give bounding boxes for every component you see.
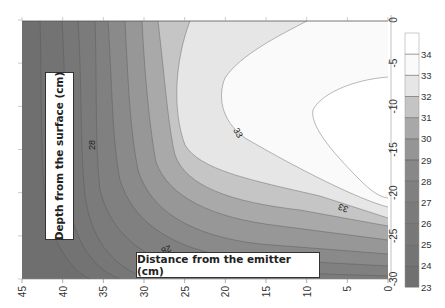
y-axis-label: Depth from the surface (cm)	[54, 72, 66, 241]
colorbar-band	[405, 75, 419, 96]
contour-label-28a: 28	[87, 140, 97, 150]
colorbar-tick-label: 33	[421, 70, 432, 81]
colorbar: 343332313029282726252423	[405, 33, 432, 293]
colorbar-tick-label: 27	[421, 197, 432, 208]
colorbar-band	[405, 139, 419, 160]
colorbar-tick-label: 26	[421, 218, 432, 229]
x-tick-label: 30	[139, 286, 150, 298]
y-tick-label: -5	[388, 58, 399, 67]
plot-area	[22, 21, 388, 279]
y-tick-label: -20	[388, 185, 399, 200]
colorbar-band	[405, 54, 419, 75]
x-tick-label: 15	[261, 286, 272, 298]
colorbar-band	[405, 97, 419, 118]
x-axis-label-box: Distance from the emitter (cm)	[136, 252, 320, 278]
x-tick-label: 10	[302, 286, 313, 298]
colorbar-tick-label: 25	[421, 239, 432, 250]
x-tick-label: 20	[220, 286, 231, 298]
x-tick-label: 45	[17, 286, 28, 298]
colorbar-band	[405, 33, 419, 54]
colorbar-tick-label: 28	[421, 176, 432, 187]
y-tick-label: -10	[388, 99, 399, 114]
colorbar-band	[405, 266, 419, 287]
x-axis-label: Distance from the emitter (cm)	[137, 253, 319, 277]
x-tick-label: 40	[58, 286, 69, 298]
colorbar-tick-label: 34	[421, 49, 432, 60]
x-tick-label: 5	[342, 286, 353, 292]
x-tick-label: 35	[98, 286, 109, 298]
colorbar-band	[405, 160, 419, 181]
colorbar-band	[405, 245, 419, 266]
colorbar-band	[405, 202, 419, 223]
colorbar-tick-label: 24	[421, 260, 432, 271]
x-tick-label: 25	[180, 286, 191, 298]
colorbar-tick-label: 29	[421, 155, 432, 166]
colorbar-tick-label: 32	[421, 91, 432, 102]
colorbar-band	[405, 118, 419, 139]
y-tick-label: -15	[388, 142, 399, 157]
colorbar-band	[405, 181, 419, 202]
y-axis-label-box: Depth from the surface (cm)	[45, 72, 74, 240]
y-tick-label: -30	[388, 271, 399, 286]
colorbar-tick-label: 23	[421, 282, 432, 293]
y-tick-label: -25	[388, 228, 399, 243]
colorbar-tick-label: 31	[421, 112, 432, 123]
colorbar-tick-label: 30	[421, 133, 432, 144]
y-tick-label: 0	[388, 17, 399, 23]
colorbar-band	[405, 224, 419, 245]
